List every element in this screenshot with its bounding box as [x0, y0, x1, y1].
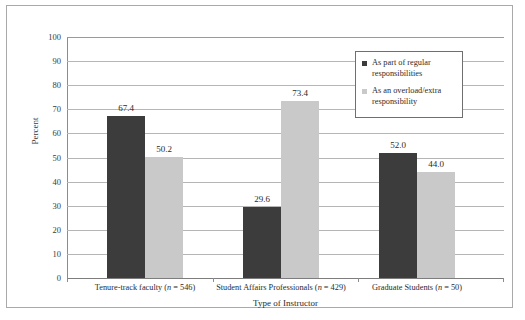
y-tick-label: 40	[15, 177, 61, 186]
x-category-label-1: Student Affairs Professionals (n = 429)	[216, 284, 346, 292]
bar-value-label: 67.4	[118, 104, 134, 113]
bar-2-0	[379, 153, 417, 278]
x-category-label-2: Graduate Students (n = 50)	[372, 284, 462, 292]
bar-value-label: 73.4	[292, 89, 308, 98]
figure-frame: 1009080706050403020100 Percent 67.450.22…	[6, 5, 513, 308]
bar-value-label: 50.2	[156, 145, 172, 154]
bar-1-1	[281, 101, 319, 278]
x-tick-mark-1	[213, 278, 214, 282]
bar-2-1	[417, 172, 455, 278]
chart-legend: As part of regularresponsibilitiesAs an …	[355, 51, 463, 118]
y-axis-title: Percent	[30, 91, 40, 171]
y-tick-label: 100	[15, 33, 61, 42]
y-tick-label: 90	[15, 57, 61, 66]
bar-value-label: 52.0	[390, 141, 406, 150]
bar-0-1	[145, 157, 183, 278]
legend-swatch-icon	[362, 89, 367, 94]
bar-value-label: 44.0	[428, 160, 444, 169]
bar-0-0	[107, 116, 145, 278]
legend-label: As an overload/extraresponsibility	[372, 86, 441, 107]
bar-value-label: 29.6	[254, 195, 270, 204]
legend-item-1: As an overload/extraresponsibility	[362, 86, 457, 107]
y-tick-label: 80	[15, 81, 61, 90]
bar-1-0	[243, 207, 281, 278]
legend-item-0: As part of regularresponsibilities	[362, 58, 457, 79]
legend-label: As part of regularresponsibilities	[372, 58, 431, 79]
legend-swatch-icon	[362, 61, 367, 66]
x-category-label-0: Tenure-track faculty (n = 546)	[95, 284, 195, 292]
y-tick-label: 10	[15, 250, 61, 259]
y-tick-label: 20	[15, 226, 61, 235]
x-axis-title: Type of Instructor	[67, 298, 504, 308]
x-tick-mark-2	[358, 278, 359, 282]
x-tick-mark-3	[503, 278, 504, 282]
y-tick-label: 30	[15, 201, 61, 210]
gridline-0	[67, 278, 504, 279]
x-tick-mark-0	[67, 278, 68, 282]
y-tick-label: 0	[15, 274, 61, 283]
gridline-100	[67, 37, 504, 38]
